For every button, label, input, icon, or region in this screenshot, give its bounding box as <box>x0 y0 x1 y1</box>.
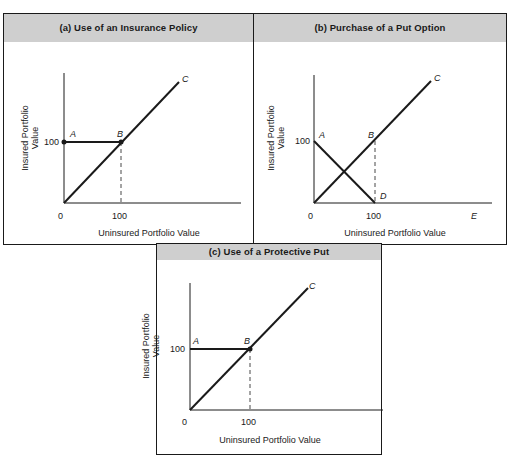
label-c: C <box>309 281 316 291</box>
label-e: E <box>471 211 478 221</box>
y-axis-label-line2: Value <box>30 127 40 149</box>
x-tick-0: 0 <box>308 211 313 221</box>
x-tick-100: 100 <box>366 211 381 221</box>
x-tick-100: 100 <box>241 417 256 427</box>
panel-put-option: (b) Purchase of a Put Option 100 0 100 A… <box>253 13 507 245</box>
x-tick-0: 0 <box>182 417 187 427</box>
panel-insurance-policy: (a) Use of an Insurance Policy 100 0 100… <box>3 13 254 245</box>
y-tick-100: 100 <box>295 136 310 146</box>
y-axis-label-line2: Value <box>276 127 286 149</box>
label-c: C <box>182 74 189 84</box>
put-option-chart: 100 0 100 A B C D E Uninsured Portfolio … <box>254 42 508 246</box>
protective-put-chart: 100 0 100 A B C Uninsured Portfolio Valu… <box>157 260 383 456</box>
point-b-dot <box>119 140 124 145</box>
line-0-c <box>314 81 431 203</box>
label-b: B <box>244 336 250 346</box>
y-axis-label-line1: Insured Portfolio <box>20 105 30 171</box>
y-axis-label-line2: Value <box>151 335 161 357</box>
panel-title: (b) Purchase of a Put Option <box>254 14 506 42</box>
label-a: A <box>318 130 325 140</box>
point-b-dot <box>248 347 253 352</box>
point-a-dot <box>62 140 67 145</box>
panel-title: (c) Use of a Protective Put <box>157 244 381 260</box>
y-axis-label-line1: Insured Portfolio <box>266 105 276 171</box>
label-b: B <box>117 129 123 139</box>
y-axis-label-line1: Insured Portfolio <box>141 313 151 379</box>
x-axis-label: Uninsured Portfolio Value <box>344 228 445 238</box>
x-axis-label: Uninsured Portfolio Value <box>219 435 320 445</box>
y-tick-100: 100 <box>170 344 185 354</box>
panel-title: (a) Use of an Insurance Policy <box>4 14 253 42</box>
label-d: D <box>380 191 387 201</box>
x-tick-0: 0 <box>58 211 63 221</box>
y-tick-100: 100 <box>44 137 59 147</box>
panel-protective-put: (c) Use of a Protective Put 100 0 100 A … <box>156 243 382 455</box>
x-tick-100: 100 <box>112 211 127 221</box>
x-axis-label: Uninsured Portfolio Value <box>98 228 199 238</box>
label-a: A <box>69 129 76 139</box>
label-a: A <box>192 336 199 346</box>
insurance-policy-chart: 100 0 100 A B C Uninsured Portfolio Valu… <box>4 42 255 246</box>
label-b: B <box>368 130 374 140</box>
label-c: C <box>434 73 441 83</box>
